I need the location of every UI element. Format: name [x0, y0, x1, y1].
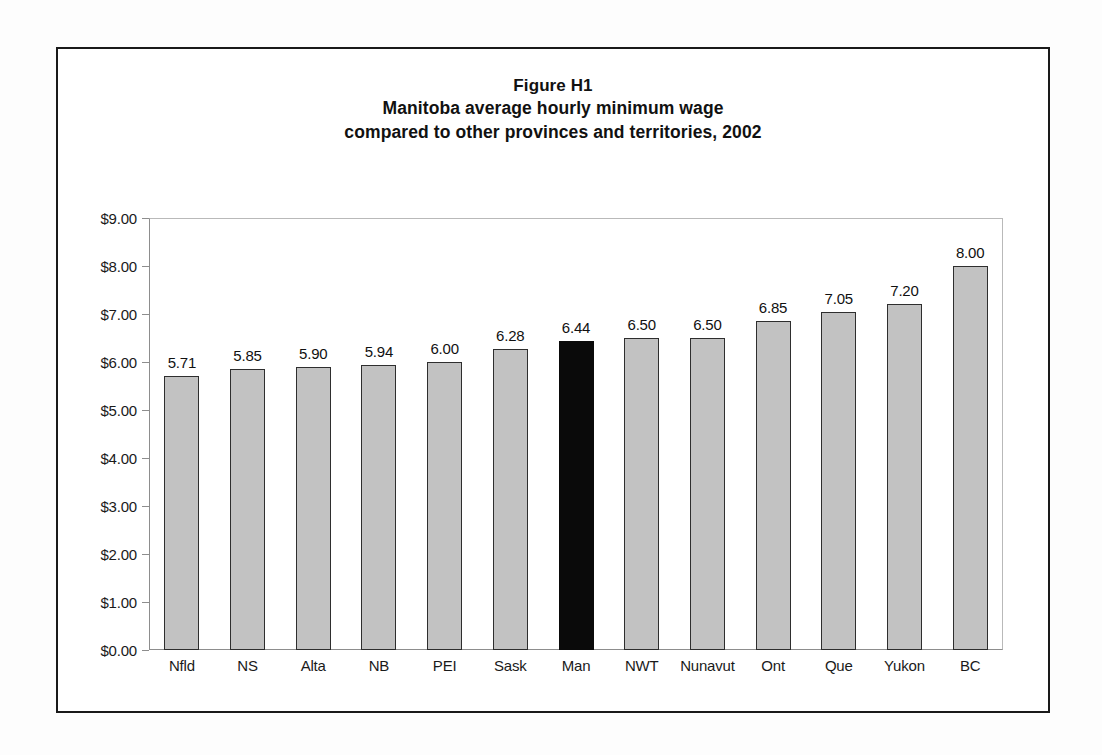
- y-axis-tick: [142, 410, 149, 411]
- bar-value-label: 6.44: [562, 319, 590, 336]
- bar-value-label: 5.90: [299, 345, 327, 362]
- x-axis-label-nunavut: Nunavut: [680, 657, 734, 674]
- y-axis-tick: [142, 218, 149, 219]
- figure-frame: Figure H1 Manitoba average hourly minimu…: [56, 47, 1050, 713]
- y-axis-label: $3.00: [100, 498, 137, 515]
- y-axis-label: $7.00: [100, 306, 137, 323]
- y-axis-tick: [142, 602, 149, 603]
- bar-alta[interactable]: [296, 367, 331, 650]
- bar-slot: 6.44: [559, 218, 594, 650]
- x-axis-label-sask: Sask: [494, 657, 527, 674]
- y-axis-tick: [142, 458, 149, 459]
- y-axis-label: $6.00: [100, 354, 137, 371]
- x-axis-label-man: Man: [562, 657, 591, 674]
- bar-nunavut[interactable]: [690, 338, 725, 650]
- bar-slot: 5.85: [230, 218, 265, 650]
- y-axis-label: $9.00: [100, 210, 137, 227]
- y-axis-tick: [142, 314, 149, 315]
- x-axis-label-ont: Ont: [761, 657, 785, 674]
- x-axis-label-pei: PEI: [433, 657, 457, 674]
- bar-slot: 6.50: [624, 218, 659, 650]
- bar-slot: 6.00: [427, 218, 462, 650]
- x-axis-label-que: Que: [825, 657, 853, 674]
- x-axis-label-nfld: Nfld: [169, 657, 195, 674]
- y-axis-tick: [142, 506, 149, 507]
- bar-slot: 6.28: [493, 218, 528, 650]
- y-axis-label: $0.00: [100, 642, 137, 659]
- bar-ns[interactable]: [230, 369, 265, 650]
- y-axis-tick: [142, 362, 149, 363]
- y-axis-label: $2.00: [100, 546, 137, 563]
- x-axis-label-bc: BC: [960, 657, 980, 674]
- bar-value-label: 6.50: [627, 316, 655, 333]
- x-axis-label-nb: NB: [369, 657, 389, 674]
- y-axis-label: $1.00: [100, 594, 137, 611]
- title-line-3: compared to other provinces and territor…: [58, 121, 1048, 144]
- bars-layer: 5.715.855.905.946.006.286.446.506.506.85…: [149, 218, 1003, 650]
- plot-wrap: $0.00$1.00$2.00$3.00$4.00$5.00$6.00$7.00…: [149, 218, 1003, 650]
- bar-nfld[interactable]: [164, 376, 199, 650]
- bar-value-label: 8.00: [956, 244, 984, 261]
- bar-value-label: 5.85: [233, 347, 261, 364]
- title-line-2: Manitoba average hourly minimum wage: [58, 97, 1048, 120]
- bar-man[interactable]: [559, 341, 594, 650]
- bar-nwt[interactable]: [624, 338, 659, 650]
- x-axis-label-ns: NS: [237, 657, 257, 674]
- bar-value-label: 7.20: [890, 282, 918, 299]
- bar-sask[interactable]: [493, 349, 528, 650]
- bar-slot: 5.90: [296, 218, 331, 650]
- bar-slot: 7.05: [821, 218, 856, 650]
- x-axis-label-yukon: Yukon: [884, 657, 925, 674]
- y-axis-tick: [142, 266, 149, 267]
- bar-slot: 6.85: [756, 218, 791, 650]
- y-axis-tick: [142, 650, 149, 651]
- bar-value-label: 6.85: [759, 299, 787, 316]
- bar-yukon[interactable]: [887, 304, 922, 650]
- chart-title: Figure H1 Manitoba average hourly minimu…: [58, 75, 1048, 144]
- page-background: Figure H1 Manitoba average hourly minimu…: [0, 0, 1102, 755]
- bar-slot: 8.00: [953, 218, 988, 650]
- bar-value-label: 6.00: [430, 340, 458, 357]
- y-axis-label: $4.00: [100, 450, 137, 467]
- y-axis-label: $5.00: [100, 402, 137, 419]
- y-axis-tick: [142, 554, 149, 555]
- y-axis-label: $8.00: [100, 258, 137, 275]
- bar-value-label: 6.28: [496, 327, 524, 344]
- x-axis-labels: NfldNSAltaNBPEISaskManNWTNunavutOntQueYu…: [149, 657, 1003, 687]
- x-axis-label-nwt: NWT: [625, 657, 659, 674]
- bar-value-label: 5.71: [168, 354, 196, 371]
- bar-que[interactable]: [821, 312, 856, 650]
- bar-bc[interactable]: [953, 266, 988, 650]
- bar-nb[interactable]: [361, 365, 396, 650]
- bar-value-label: 7.05: [825, 290, 853, 307]
- bar-value-label: 6.50: [693, 316, 721, 333]
- bar-pei[interactable]: [427, 362, 462, 650]
- x-axis-label-alta: Alta: [301, 657, 326, 674]
- bar-slot: 5.71: [164, 218, 199, 650]
- bar-slot: 5.94: [361, 218, 396, 650]
- bar-value-label: 5.94: [365, 343, 393, 360]
- bar-slot: 6.50: [690, 218, 725, 650]
- bar-slot: 7.20: [887, 218, 922, 650]
- bar-ont[interactable]: [756, 321, 791, 650]
- title-line-1: Figure H1: [58, 75, 1048, 97]
